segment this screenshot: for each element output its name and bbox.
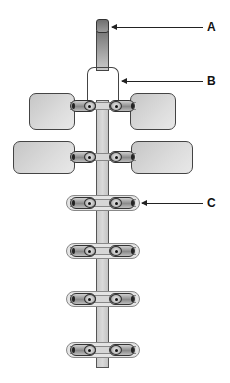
rivet-icon <box>115 349 118 352</box>
rivet-icon <box>115 156 118 159</box>
rivet-icon <box>88 202 91 205</box>
clip-end <box>72 200 75 206</box>
clip-left <box>70 245 96 257</box>
clip-end <box>72 154 75 160</box>
rivet-icon <box>88 156 91 159</box>
rivet-icon <box>115 298 118 301</box>
clip-end <box>131 200 134 206</box>
label-a: A <box>207 21 216 33</box>
clip-end <box>131 154 134 160</box>
clip-end <box>72 347 75 353</box>
arrow-b <box>122 81 203 82</box>
clip-right <box>109 197 135 209</box>
clip-right <box>109 151 135 163</box>
clip-end <box>72 103 75 109</box>
label-b: B <box>207 75 216 87</box>
arrow-c <box>142 203 203 204</box>
clip-right <box>109 293 135 305</box>
rivet-icon <box>115 202 118 205</box>
rivet-icon <box>88 105 91 108</box>
top-strap <box>96 31 109 71</box>
clip-right <box>109 100 135 112</box>
clip-end <box>72 248 75 254</box>
clip-end <box>131 248 134 254</box>
arrow-a <box>112 27 203 28</box>
clip-end <box>131 103 134 109</box>
rivet-icon <box>88 349 91 352</box>
label-c: C <box>207 197 216 209</box>
top-tab-a <box>96 19 109 33</box>
pad-lower-right <box>131 141 193 174</box>
clip-right <box>109 344 135 356</box>
clip-left <box>70 344 96 356</box>
clip-end <box>131 347 134 353</box>
clip-right <box>109 245 135 257</box>
pad-upper-right <box>130 93 176 130</box>
clip-left <box>70 293 96 305</box>
pad-upper-left <box>29 93 75 130</box>
rivet-icon <box>115 250 118 253</box>
pad-lower-left <box>13 141 75 174</box>
main-strap <box>96 100 109 368</box>
rivet-icon <box>88 298 91 301</box>
clip-left <box>70 197 96 209</box>
rivet-icon <box>115 105 118 108</box>
clip-end <box>72 296 75 302</box>
clip-left <box>70 151 96 163</box>
clip-left <box>70 100 96 112</box>
clip-end <box>131 296 134 302</box>
rivet-icon <box>88 250 91 253</box>
